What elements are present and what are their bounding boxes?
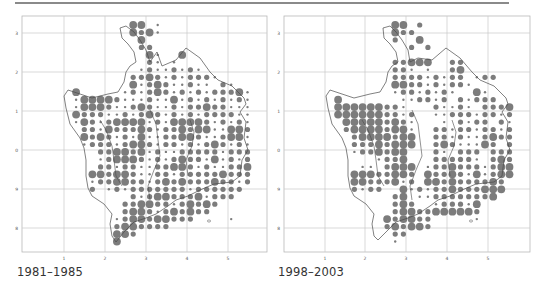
y-tick-label: 2 bbox=[277, 70, 280, 75]
abundance-dot bbox=[148, 121, 150, 123]
abundance-dot bbox=[491, 142, 496, 147]
abundance-dot bbox=[237, 120, 242, 125]
abundance-dot bbox=[163, 187, 168, 192]
abundance-dot bbox=[90, 187, 95, 192]
abundance-dot bbox=[138, 215, 146, 223]
abundance-dot bbox=[90, 120, 95, 125]
abundance-dot bbox=[427, 196, 429, 198]
abundance-dot bbox=[450, 82, 455, 87]
abundance-dot bbox=[173, 151, 175, 153]
abundance-dot bbox=[212, 202, 217, 207]
abundance-dot bbox=[147, 187, 152, 192]
abundance-dot bbox=[188, 112, 193, 117]
abundance-dot bbox=[147, 209, 152, 214]
abundance-dot bbox=[195, 193, 203, 201]
abundance-dot bbox=[410, 121, 412, 123]
abundance-dot bbox=[80, 103, 88, 111]
abundance-dot bbox=[165, 99, 167, 101]
abundance-dot bbox=[197, 84, 199, 86]
abundance-dot bbox=[204, 142, 209, 147]
abundance-dot bbox=[157, 31, 159, 33]
abundance-dot bbox=[222, 166, 224, 168]
abundance-dot bbox=[220, 97, 225, 102]
abundance-dot bbox=[468, 203, 470, 205]
abundance-dot bbox=[443, 84, 445, 86]
abundance-dot bbox=[385, 105, 390, 110]
abundance-dot bbox=[229, 157, 234, 162]
abundance-dot bbox=[443, 113, 445, 115]
abundance-dot bbox=[246, 121, 248, 123]
abundance-dot bbox=[401, 232, 406, 237]
abundance-dot bbox=[155, 112, 160, 117]
abundance-dot bbox=[402, 113, 404, 115]
abundance-dot bbox=[178, 178, 186, 186]
abundance-dot bbox=[154, 81, 162, 89]
abundance-dot bbox=[97, 103, 105, 111]
abundance-dot bbox=[440, 141, 448, 149]
abundance-dot bbox=[222, 128, 224, 130]
abundance-dot bbox=[72, 111, 80, 119]
abundance-dot bbox=[489, 185, 497, 193]
abundance-dot bbox=[491, 127, 496, 132]
abundance-dot bbox=[90, 112, 95, 117]
abundance-dot bbox=[90, 134, 95, 139]
abundance-dot bbox=[220, 142, 225, 147]
abundance-dot bbox=[180, 90, 185, 95]
abundance-dot bbox=[123, 127, 128, 132]
abundance-dot bbox=[80, 118, 88, 126]
abundance-dot bbox=[163, 164, 168, 169]
y-tick-label: 1 bbox=[15, 109, 18, 114]
abundance-dot bbox=[203, 200, 211, 208]
abundance-dot bbox=[171, 105, 176, 110]
abundance-dot bbox=[72, 88, 80, 96]
abundance-dot bbox=[468, 99, 470, 101]
abundance-dot bbox=[211, 156, 219, 164]
abundance-dot bbox=[393, 194, 398, 199]
abundance-dot bbox=[368, 187, 373, 192]
abundance-dot bbox=[476, 218, 478, 220]
abundance-dot bbox=[106, 164, 111, 169]
abundance-dot bbox=[391, 126, 399, 134]
abundance-dot bbox=[508, 121, 510, 123]
abundance-dot bbox=[180, 217, 185, 222]
abundance-dot bbox=[425, 209, 430, 214]
abundance-dot bbox=[506, 103, 514, 111]
abundance-dot bbox=[108, 188, 110, 190]
abundance-dot bbox=[155, 202, 160, 207]
abundance-dot bbox=[214, 121, 216, 123]
abundance-dot bbox=[212, 90, 217, 95]
abundance-dot bbox=[449, 185, 457, 193]
abundance-dot bbox=[181, 106, 183, 108]
abundance-dot bbox=[385, 224, 390, 229]
abundance-dot bbox=[204, 75, 209, 80]
abundance-dot bbox=[440, 208, 448, 216]
abundance-dot bbox=[245, 172, 250, 177]
abundance-dot bbox=[442, 202, 447, 207]
abundance-dot bbox=[474, 164, 479, 169]
abundance-dot bbox=[178, 133, 186, 141]
abundance-dot bbox=[171, 179, 176, 184]
abundance-dot bbox=[458, 134, 463, 139]
abundance-dot bbox=[196, 172, 201, 177]
abundance-dot bbox=[220, 187, 225, 192]
abundance-dot bbox=[491, 97, 496, 102]
x-tick-label: 4 bbox=[446, 256, 449, 261]
abundance-dot bbox=[220, 134, 225, 139]
abundance-dot bbox=[113, 148, 121, 156]
abundance-dot bbox=[171, 127, 176, 132]
abundance-dot bbox=[165, 69, 167, 71]
abundance-dot bbox=[468, 106, 470, 108]
abundance-dot bbox=[442, 127, 447, 132]
abundance-dot bbox=[442, 187, 447, 192]
abundance-dot bbox=[450, 202, 455, 207]
abundance-dot bbox=[352, 142, 357, 147]
abundance-dot bbox=[203, 126, 211, 134]
abundance-dot bbox=[425, 217, 430, 222]
abundance-dot bbox=[206, 158, 208, 160]
abundance-dot bbox=[424, 178, 432, 186]
abundance-dot bbox=[238, 106, 240, 108]
abundance-dot bbox=[425, 90, 430, 95]
abundance-dot bbox=[458, 157, 463, 162]
abundance-dot bbox=[359, 133, 367, 141]
abundance-dot bbox=[427, 188, 429, 190]
